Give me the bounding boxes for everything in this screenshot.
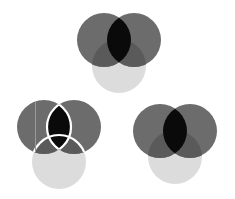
venn-group-bottom-right bbox=[133, 104, 217, 184]
venn-diagrams bbox=[0, 0, 235, 199]
venn-group-top bbox=[77, 13, 161, 93]
venn-group-bottom-left bbox=[17, 100, 101, 189]
venn-diagram-canvas bbox=[0, 0, 235, 199]
